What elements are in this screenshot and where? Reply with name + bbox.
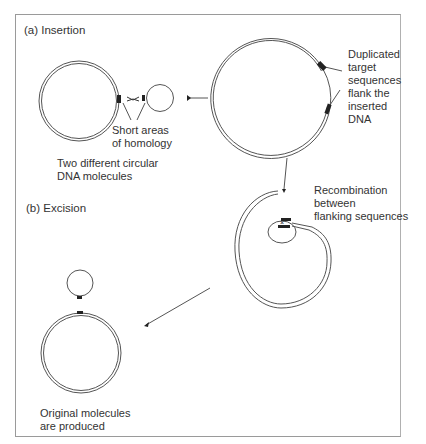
homology-marker [117,95,121,103]
target-sequence-marker [324,104,331,115]
integrated-dna [211,39,331,159]
two-molecules-label: Two different circular DNA molecules [57,157,158,183]
recombination-label: Recombination between flanking sequences [314,184,408,223]
label-line: Short areas [112,124,172,137]
product-marker [77,296,82,299]
label-line: Recombination [314,184,408,197]
homology-label: Short areas of homology [112,124,172,150]
homology-marker [142,95,145,101]
arrowhead [144,322,149,327]
label-line: of homology [112,137,172,150]
pointer-line [330,90,340,105]
original-label: Original molecules are produced [40,407,130,433]
pointer-line [137,103,145,120]
label-line: sequences [348,74,401,87]
pointer-line [123,103,131,120]
label-line: flanking sequences [314,210,408,223]
duplicated-label: Duplicated target sequences flank the in… [348,48,401,126]
label-line: flank the [348,87,401,100]
arrowhead [282,189,286,193]
arrowhead [187,95,191,101]
label-line: Duplicated [348,48,401,61]
cross-icon [127,97,139,101]
large-circular-dna-product [41,313,121,393]
label-line: between [314,197,408,210]
label-line: Original molecules [40,407,130,420]
label-line: DNA molecules [57,170,158,183]
label-line: are produced [40,420,130,433]
pointer-line [325,67,342,71]
section-excision-label: (b) Excision [26,202,86,215]
label-line: Two different circular [57,157,158,170]
large-circular-dna [39,61,119,141]
small-circular-dna [147,85,174,112]
arrow-down [284,158,287,189]
section-insertion-label: (a) Insertion [24,24,85,37]
product-marker [77,311,83,314]
label-line: target [348,61,401,74]
small-circular-dna-product [67,270,93,296]
arrow-down-left [146,288,210,325]
label-line: DNA [348,113,401,126]
label-line: inserted [348,100,401,113]
svg-text:×: × [280,219,284,226]
